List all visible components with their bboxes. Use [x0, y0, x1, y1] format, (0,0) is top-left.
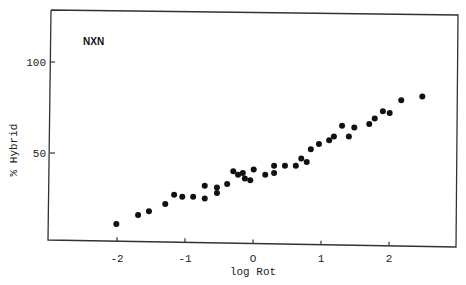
- data-point: [242, 175, 248, 181]
- data-point: [308, 146, 314, 152]
- data-point: [331, 134, 337, 140]
- data-point: [380, 108, 386, 114]
- x-tick-label: O: [250, 253, 257, 265]
- y-tick-label: 50: [33, 148, 46, 160]
- x-tick-label: -1: [178, 253, 192, 265]
- data-point: [326, 137, 332, 143]
- data-point: [316, 141, 322, 147]
- data-point: [214, 185, 220, 191]
- data-point: [419, 94, 425, 100]
- data-point: [346, 134, 352, 140]
- y-tick-label: 100: [26, 57, 46, 69]
- data-point: [113, 221, 119, 227]
- data-point: [135, 212, 141, 218]
- data-point: [190, 194, 196, 200]
- data-point: [282, 163, 288, 169]
- plot-border: [48, 10, 458, 247]
- scatter-chart: 50100 -2-1O12 NXN log Rot % Hybrid: [0, 0, 466, 285]
- data-point: [372, 115, 378, 121]
- data-point: [387, 110, 393, 116]
- data-point: [230, 168, 236, 174]
- x-axis-label: log Rot: [230, 266, 276, 278]
- data-point: [351, 125, 357, 131]
- data-point: [251, 166, 257, 172]
- data-point: [224, 181, 230, 187]
- data-point: [398, 97, 404, 103]
- data-point: [202, 183, 208, 189]
- data-point: [202, 196, 208, 202]
- y-axis-label: % Hybrid: [8, 124, 20, 177]
- data-point: [162, 201, 168, 207]
- plot-frame: [48, 10, 458, 247]
- data-point: [298, 155, 304, 161]
- data-point: [179, 194, 185, 200]
- x-tick-label: 1: [318, 253, 325, 265]
- data-point: [271, 170, 277, 176]
- data-point: [262, 172, 268, 178]
- x-tick-label: -2: [110, 253, 123, 265]
- data-point: [214, 190, 220, 196]
- data-point: [171, 192, 177, 198]
- data-point: [366, 121, 372, 127]
- x-tick-label: 2: [386, 253, 393, 265]
- data-point: [240, 170, 246, 176]
- data-point: [293, 163, 299, 169]
- data-point: [146, 208, 152, 214]
- data-point: [304, 159, 310, 165]
- data-points: [113, 94, 425, 227]
- series-annotation: NXN: [83, 36, 104, 47]
- data-point: [247, 177, 253, 183]
- data-point: [271, 163, 277, 169]
- data-point: [339, 123, 345, 129]
